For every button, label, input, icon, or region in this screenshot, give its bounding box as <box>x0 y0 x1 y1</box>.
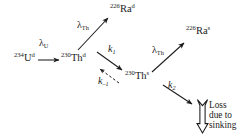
node-mass-number: 230 <box>125 69 135 76</box>
node-mass-number: 226 <box>110 2 120 9</box>
node-element-symbol: Ra <box>196 25 208 36</box>
node-element-symbol: Th <box>71 52 83 63</box>
node-phase-superscript: s <box>208 24 211 31</box>
rate-subscript: 2 <box>172 84 175 91</box>
node-u234-dissolved: 234Ud <box>14 52 35 63</box>
node-phase-superscript: s <box>147 69 150 76</box>
diagram-arrows-layer <box>0 0 243 137</box>
hollow-down-arrow-icon <box>197 100 208 133</box>
loss-line-2: due to <box>209 110 236 120</box>
rate-label-k1: k1 <box>108 44 116 56</box>
rate-label-k-minus-1: k–1 <box>98 76 109 88</box>
node-phase-superscript: d <box>132 2 135 9</box>
node-phase-superscript: d <box>83 51 86 58</box>
rate-label-lambda-u: λU <box>39 38 48 50</box>
node-element-symbol: Th <box>135 70 147 81</box>
rate-subscript: –1 <box>102 80 108 87</box>
rate-label-lambda-th-dissolved: λTh <box>77 20 89 32</box>
decay-scheme-figure: 234Ud 230Thd 226Rad 230Ths 226Ras λU λTh… <box>0 0 243 137</box>
loss-line-1: Loss <box>209 100 236 110</box>
rate-label-lambda-th-sinking: λTh <box>152 45 164 57</box>
node-mass-number: 226 <box>186 24 196 31</box>
node-ra226-sinking: 226Ras <box>186 25 210 36</box>
node-mass-number: 230 <box>61 51 71 58</box>
node-ra226-dissolved: 226Rad <box>110 3 135 14</box>
node-element-symbol: Ra <box>120 3 132 14</box>
loss-line-3: sinking <box>209 120 236 130</box>
node-th230-sinking: 230Ths <box>125 70 149 81</box>
loss-due-to-sinking-label: Loss due to sinking <box>209 100 236 131</box>
rate-label-k2: k2 <box>168 80 176 92</box>
node-mass-number: 234 <box>14 51 24 58</box>
node-phase-superscript: d <box>31 51 34 58</box>
rate-subscript: Th <box>82 24 89 31</box>
rate-subscript: Th <box>157 49 164 56</box>
node-th230-dissolved: 230Thd <box>61 52 86 63</box>
rate-subscript: U <box>44 42 49 49</box>
rate-subscript: 1 <box>112 48 115 55</box>
